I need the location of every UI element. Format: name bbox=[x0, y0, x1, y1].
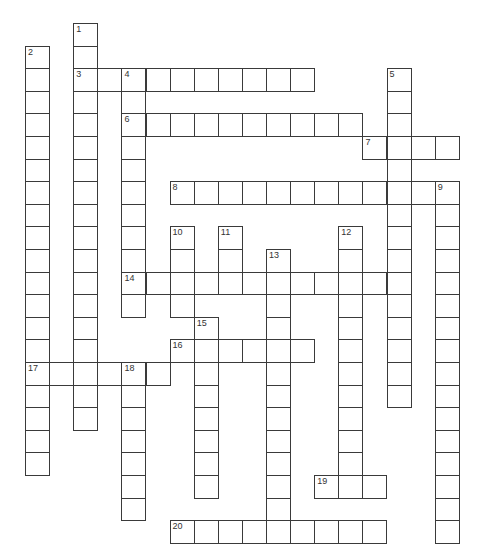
crossword-cell-r16-c10[interactable] bbox=[266, 385, 291, 409]
crossword-cell-r4-c0[interactable] bbox=[25, 113, 50, 137]
crossword-cell-r6-c0[interactable] bbox=[25, 159, 50, 183]
crossword-cell-r16-c4[interactable] bbox=[121, 385, 146, 409]
crossword-cell-r5-c0[interactable] bbox=[25, 136, 50, 160]
crossword-cell-r19-c7[interactable] bbox=[194, 452, 219, 476]
crossword-cell-r7-c7[interactable] bbox=[194, 181, 219, 205]
crossword-cell-r15-c13[interactable] bbox=[338, 362, 363, 386]
crossword-cell-r11-c4[interactable]: 14 bbox=[121, 272, 146, 296]
crossword-cell-r11-c15[interactable] bbox=[387, 272, 412, 296]
crossword-cell-r4-c9[interactable] bbox=[242, 113, 267, 137]
crossword-cell-r9-c17[interactable] bbox=[435, 226, 460, 250]
crossword-cell-r9-c8[interactable]: 11 bbox=[218, 226, 243, 250]
crossword-cell-r13-c13[interactable] bbox=[338, 317, 363, 341]
crossword-cell-r16-c17[interactable] bbox=[435, 385, 460, 409]
crossword-cell-r16-c0[interactable] bbox=[25, 385, 50, 409]
crossword-cell-r11-c9[interactable] bbox=[242, 272, 267, 296]
crossword-cell-r7-c9[interactable] bbox=[242, 181, 267, 205]
crossword-cell-r7-c11[interactable] bbox=[290, 181, 315, 205]
crossword-cell-r0-c2[interactable]: 1 bbox=[73, 23, 98, 47]
crossword-cell-r11-c10[interactable] bbox=[266, 272, 291, 296]
crossword-cell-r6-c2[interactable] bbox=[73, 159, 98, 183]
crossword-cell-r2-c0[interactable] bbox=[25, 68, 50, 92]
crossword-cell-r4-c11[interactable] bbox=[290, 113, 315, 137]
crossword-cell-r18-c7[interactable] bbox=[194, 430, 219, 454]
crossword-cell-r7-c8[interactable] bbox=[218, 181, 243, 205]
crossword-cell-r5-c14[interactable]: 7 bbox=[362, 136, 387, 160]
crossword-cell-r17-c7[interactable] bbox=[194, 407, 219, 431]
crossword-cell-r13-c10[interactable] bbox=[266, 317, 291, 341]
crossword-cell-r10-c2[interactable] bbox=[73, 249, 98, 273]
crossword-cell-r7-c4[interactable] bbox=[121, 181, 146, 205]
crossword-cell-r17-c0[interactable] bbox=[25, 407, 50, 431]
crossword-cell-r14-c10[interactable] bbox=[266, 339, 291, 363]
crossword-cell-r13-c17[interactable] bbox=[435, 317, 460, 341]
crossword-cell-r12-c0[interactable] bbox=[25, 294, 50, 318]
crossword-cell-r9-c13[interactable]: 12 bbox=[338, 226, 363, 250]
crossword-cell-r20-c17[interactable] bbox=[435, 475, 460, 499]
crossword-cell-r2-c4[interactable]: 4 bbox=[121, 68, 146, 92]
crossword-cell-r10-c8[interactable] bbox=[218, 249, 243, 273]
crossword-cell-r7-c10[interactable] bbox=[266, 181, 291, 205]
crossword-cell-r7-c14[interactable] bbox=[362, 181, 387, 205]
crossword-cell-r22-c12[interactable] bbox=[314, 520, 339, 544]
crossword-cell-r4-c4[interactable]: 6 bbox=[121, 113, 146, 137]
crossword-cell-r2-c5[interactable] bbox=[146, 68, 171, 92]
crossword-cell-r11-c12[interactable] bbox=[314, 272, 339, 296]
crossword-cell-r7-c17[interactable]: 9 bbox=[435, 181, 460, 205]
crossword-cell-r15-c15[interactable] bbox=[387, 362, 412, 386]
crossword-cell-r20-c14[interactable] bbox=[362, 475, 387, 499]
crossword-cell-r10-c0[interactable] bbox=[25, 249, 50, 273]
crossword-cell-r14-c6[interactable]: 16 bbox=[170, 339, 195, 363]
crossword-cell-r14-c13[interactable] bbox=[338, 339, 363, 363]
crossword-cell-r4-c12[interactable] bbox=[314, 113, 339, 137]
crossword-cell-r2-c11[interactable] bbox=[290, 68, 315, 92]
crossword-cell-r6-c15[interactable] bbox=[387, 159, 412, 183]
crossword-cell-r15-c7[interactable] bbox=[194, 362, 219, 386]
crossword-cell-r7-c16[interactable] bbox=[411, 181, 436, 205]
crossword-cell-r14-c2[interactable] bbox=[73, 339, 98, 363]
crossword-cell-r3-c4[interactable] bbox=[121, 91, 146, 115]
crossword-cell-r4-c2[interactable] bbox=[73, 113, 98, 137]
crossword-cell-r22-c11[interactable] bbox=[290, 520, 315, 544]
crossword-cell-r9-c2[interactable] bbox=[73, 226, 98, 250]
crossword-cell-r4-c7[interactable] bbox=[194, 113, 219, 137]
crossword-cell-r18-c4[interactable] bbox=[121, 430, 146, 454]
crossword-cell-r2-c7[interactable] bbox=[194, 68, 219, 92]
crossword-cell-r22-c14[interactable] bbox=[362, 520, 387, 544]
crossword-cell-r12-c15[interactable] bbox=[387, 294, 412, 318]
crossword-cell-r17-c2[interactable] bbox=[73, 407, 98, 431]
crossword-cell-r8-c0[interactable] bbox=[25, 204, 50, 228]
crossword-cell-r2-c10[interactable] bbox=[266, 68, 291, 92]
crossword-cell-r10-c4[interactable] bbox=[121, 249, 146, 273]
crossword-cell-r14-c17[interactable] bbox=[435, 339, 460, 363]
crossword-cell-r20-c10[interactable] bbox=[266, 475, 291, 499]
crossword-cell-r15-c0[interactable]: 17 bbox=[25, 362, 50, 386]
crossword-cell-r4-c15[interactable] bbox=[387, 113, 412, 137]
crossword-cell-r4-c13[interactable] bbox=[338, 113, 363, 137]
crossword-cell-r12-c4[interactable] bbox=[121, 294, 146, 318]
crossword-cell-r22-c17[interactable] bbox=[435, 520, 460, 544]
crossword-cell-r13-c0[interactable] bbox=[25, 317, 50, 341]
crossword-cell-r22-c9[interactable] bbox=[242, 520, 267, 544]
crossword-cell-r11-c2[interactable] bbox=[73, 272, 98, 296]
crossword-cell-r18-c0[interactable] bbox=[25, 430, 50, 454]
crossword-cell-r5-c2[interactable] bbox=[73, 136, 98, 160]
crossword-cell-r22-c8[interactable] bbox=[218, 520, 243, 544]
crossword-cell-r12-c10[interactable] bbox=[266, 294, 291, 318]
crossword-cell-r17-c17[interactable] bbox=[435, 407, 460, 431]
crossword-cell-r8-c17[interactable] bbox=[435, 204, 460, 228]
crossword-cell-r6-c4[interactable] bbox=[121, 159, 146, 183]
crossword-cell-r15-c4[interactable]: 18 bbox=[121, 362, 146, 386]
crossword-cell-r14-c7[interactable] bbox=[194, 339, 219, 363]
crossword-cell-r19-c0[interactable] bbox=[25, 452, 50, 476]
crossword-cell-r9-c15[interactable] bbox=[387, 226, 412, 250]
crossword-cell-r10-c13[interactable] bbox=[338, 249, 363, 273]
crossword-cell-r9-c0[interactable] bbox=[25, 226, 50, 250]
crossword-cell-r11-c17[interactable] bbox=[435, 272, 460, 296]
crossword-cell-r17-c10[interactable] bbox=[266, 407, 291, 431]
crossword-cell-r4-c6[interactable] bbox=[170, 113, 195, 137]
crossword-cell-r3-c2[interactable] bbox=[73, 91, 98, 115]
crossword-cell-r14-c9[interactable] bbox=[242, 339, 267, 363]
crossword-cell-r15-c2[interactable] bbox=[73, 362, 98, 386]
crossword-cell-r14-c15[interactable] bbox=[387, 339, 412, 363]
